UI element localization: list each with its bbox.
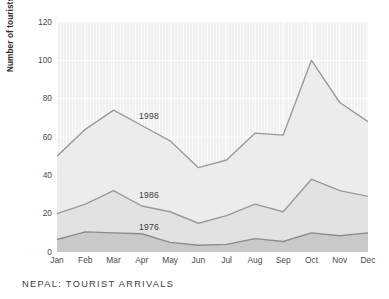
x-axis-tick-labels: JanFebMarAprMayJunJulAugSepOctNovDec <box>57 256 368 270</box>
y-tick-label: 60 <box>26 133 52 141</box>
series-lines <box>57 22 368 252</box>
y-tick-label: 80 <box>26 94 52 102</box>
y-tick-label: 0 <box>26 248 52 256</box>
plot-area <box>57 22 368 252</box>
series-label-1998: 1998 <box>139 112 159 121</box>
y-tick-label: 120 <box>26 18 52 26</box>
series-label-1976: 1976 <box>139 223 159 232</box>
chart-figure: Number of tourists (thousand) 0204060801… <box>0 0 389 299</box>
y-tick-label: 100 <box>26 56 52 64</box>
x-tick-label: Dec <box>348 256 388 264</box>
series-label-1986: 1986 <box>139 191 159 200</box>
y-axis-tick-labels: 020406080100120 <box>22 0 52 299</box>
y-tick-label: 20 <box>26 209 52 217</box>
y-axis-title: Number of tourists (thousand) <box>6 0 15 72</box>
chart-caption: NEPAL: TOURIST ARRIVALS <box>22 279 174 289</box>
y-tick-label: 40 <box>26 171 52 179</box>
